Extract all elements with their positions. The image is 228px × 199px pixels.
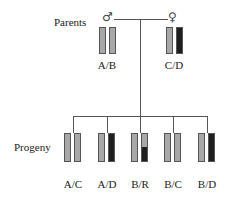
chromosome-dark xyxy=(208,133,215,162)
genotype-label: A/C xyxy=(58,178,88,190)
genotype-label: A/D xyxy=(92,178,122,190)
progeny-label: Progeny xyxy=(14,141,51,153)
chromosome-light xyxy=(74,133,81,162)
chromosome-light xyxy=(99,27,106,54)
chromosome-light xyxy=(98,133,105,162)
chromosome-light xyxy=(131,133,138,162)
parents-label: Parents xyxy=(54,16,86,28)
pedigree-diagram: Parents Progeny ♂ ♀ A/B C/D A/C A/D B/R xyxy=(0,0,228,199)
genotype-label: B/C xyxy=(158,178,188,190)
drop-line xyxy=(73,116,74,133)
chromosome-dark xyxy=(108,133,115,162)
chromosome-light xyxy=(64,133,71,162)
chromosome-light xyxy=(164,133,171,162)
chromosome-recombinant xyxy=(141,133,148,162)
drop-line xyxy=(207,116,208,133)
chromosome-light xyxy=(198,133,205,162)
genotype-label: B/R xyxy=(125,178,155,190)
chromosome-light xyxy=(166,27,173,54)
genotype-label: B/D xyxy=(192,178,222,190)
chromosome-light xyxy=(109,27,116,54)
male-symbol-icon: ♂ xyxy=(102,11,113,23)
descent-line xyxy=(140,19,141,116)
genotype-label: C/D xyxy=(159,59,189,71)
female-symbol-icon: ♀ xyxy=(168,11,177,23)
mating-line xyxy=(114,19,168,20)
drop-line xyxy=(173,116,174,133)
genotype-label: A/B xyxy=(92,59,122,71)
chromosome-dark xyxy=(176,27,183,54)
chromosome-light xyxy=(174,133,181,162)
drop-line xyxy=(140,116,141,133)
drop-line xyxy=(107,116,108,133)
